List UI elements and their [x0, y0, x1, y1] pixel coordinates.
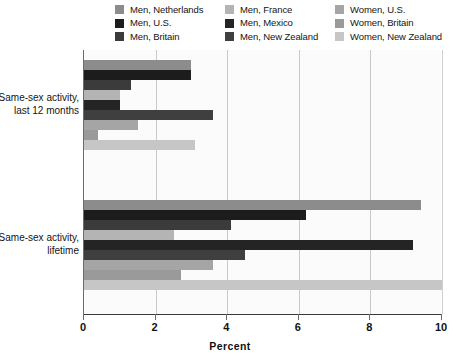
legend-swatch-icon — [225, 19, 234, 28]
x-tick — [441, 314, 442, 320]
legend-item: Women, New Zealand — [335, 30, 442, 44]
group-label: Same-sex activity,lifetime — [0, 232, 79, 257]
legend-item: Women, Britain — [335, 17, 442, 31]
legend-label: Men, Britain — [130, 32, 180, 42]
group-label-line: Same-sex activity, — [0, 92, 79, 105]
bar — [84, 260, 213, 270]
legend-item: Men, Netherlands — [115, 3, 203, 17]
legend-swatch-icon — [335, 19, 344, 28]
group-label-line: lifetime — [0, 245, 79, 258]
bar — [84, 140, 195, 150]
gridline — [299, 50, 300, 314]
legend-column-1: Men, Netherlands Men, U.S. Men, Britain — [115, 3, 203, 44]
group-label-line: Same-sex activity, — [0, 232, 79, 245]
x-tick — [155, 314, 156, 320]
legend-item: Women, U.S. — [335, 3, 442, 17]
x-tick-label: 10 — [435, 321, 447, 333]
bar — [84, 60, 191, 70]
plot-area — [83, 50, 441, 314]
legend-swatch-icon — [115, 19, 124, 28]
bar — [84, 270, 181, 280]
bar — [84, 120, 138, 130]
legend-swatch-icon — [335, 5, 344, 14]
legend-label: Men, U.S. — [130, 18, 171, 28]
legend-label: Women, Britain — [350, 18, 413, 28]
x-tick — [226, 314, 227, 320]
x-tick — [298, 314, 299, 320]
gridline — [227, 50, 228, 314]
group-label-line: last 12 months — [0, 105, 79, 118]
legend-label: Men, Mexico — [240, 18, 293, 28]
bar — [84, 210, 306, 220]
legend-item: Men, Mexico — [225, 17, 318, 31]
bar — [84, 220, 231, 230]
legend-swatch-icon — [115, 5, 124, 14]
legend-label: Women, New Zealand — [350, 32, 442, 42]
bar — [84, 110, 213, 120]
bar — [84, 200, 421, 210]
x-tick-label: 2 — [152, 321, 158, 333]
legend-label: Men, New Zealand — [240, 32, 318, 42]
legend-swatch-icon — [335, 32, 344, 41]
legend-swatch-icon — [115, 32, 124, 41]
group-label: Same-sex activity,last 12 months — [0, 92, 79, 117]
legend-item: Men, France — [225, 3, 318, 17]
bar — [84, 230, 174, 240]
legend-column-3: Women, U.S. Women, Britain Women, New Ze… — [335, 3, 442, 44]
legend-label: Men, Netherlands — [130, 5, 203, 15]
legend-swatch-icon — [225, 5, 234, 14]
chart-legend: Men, Netherlands Men, U.S. Men, Britain … — [0, 0, 460, 46]
x-tick-label: 6 — [295, 321, 301, 333]
bar — [84, 280, 442, 290]
legend-swatch-icon — [225, 32, 234, 41]
legend-item: Men, Britain — [115, 30, 203, 44]
bar — [84, 250, 245, 260]
x-axis-title: Percent — [0, 340, 460, 352]
gridline — [370, 50, 371, 314]
bar — [84, 130, 98, 140]
bar — [84, 80, 131, 90]
gridline — [442, 50, 443, 314]
bar — [84, 240, 413, 250]
bar — [84, 100, 120, 110]
bar — [84, 70, 191, 80]
legend-column-2: Men, France Men, Mexico Men, New Zealand — [225, 3, 318, 44]
x-tick-label: 8 — [366, 321, 372, 333]
x-tick — [369, 314, 370, 320]
legend-label: Men, France — [240, 5, 292, 15]
legend-label: Women, U.S. — [350, 5, 405, 15]
x-axis-line — [83, 314, 442, 315]
chart-plot-wrapper: 0246810 Same-sex activity,last 12 months… — [0, 46, 460, 362]
legend-item: Men, New Zealand — [225, 30, 318, 44]
legend-item: Men, U.S. — [115, 17, 203, 31]
x-tick-label: 0 — [80, 321, 86, 333]
x-tick — [83, 314, 84, 320]
bar — [84, 90, 120, 100]
x-tick-label: 4 — [223, 321, 229, 333]
